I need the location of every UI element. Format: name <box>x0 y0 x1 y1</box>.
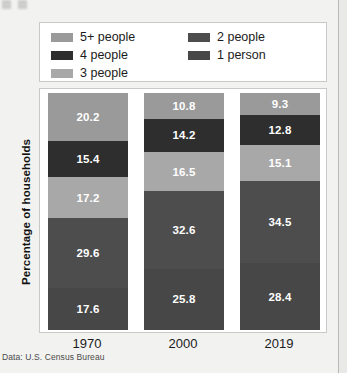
y-axis-title: Percentage of households <box>20 122 32 302</box>
legend-item: 2 people <box>188 29 266 46</box>
bar-segment-value: 16.5 <box>172 166 195 178</box>
legend-swatch-icon <box>51 33 73 42</box>
bar-segment-value: 28.4 <box>268 291 291 303</box>
bar-segment-value: 9.3 <box>272 98 289 110</box>
bar-segment-value: 32.6 <box>172 224 195 236</box>
x-tick-label: 2019 <box>239 336 319 351</box>
bar-segment: 15.1 <box>240 145 320 181</box>
legend-item-label: 4 people <box>80 49 128 62</box>
bar-segment-value: 15.4 <box>76 153 99 165</box>
bar-segment-value: 15.1 <box>268 157 291 169</box>
bar-segment-value: 20.2 <box>76 111 99 123</box>
bar-column-2019: 9.312.815.134.528.4 <box>240 93 320 330</box>
legend-item-label: 3 people <box>80 67 128 80</box>
bar-column-1970: 20.215.417.229.617.6 <box>48 93 128 330</box>
bar-segment: 25.8 <box>144 269 224 330</box>
source-note: Data: U.S. Census Bureau <box>2 352 105 362</box>
bar-segment: 28.4 <box>240 263 320 330</box>
x-axis-tick-labels: 197020002019 <box>39 336 327 351</box>
legend-item: 4 people <box>51 47 135 64</box>
legend-item: 1 person <box>188 47 266 64</box>
bar-segment-value: 34.5 <box>268 216 291 228</box>
bar-segment-value: 17.6 <box>76 303 99 315</box>
bar-segment: 16.5 <box>144 152 224 191</box>
legend-swatch-icon <box>51 51 73 60</box>
bar-segment: 34.5 <box>240 181 320 263</box>
legend-item-label: 2 people <box>217 31 265 44</box>
legend-swatch-icon <box>188 51 210 60</box>
x-tick-label: 1970 <box>47 336 127 351</box>
x-tick-label: 2000 <box>143 336 223 351</box>
bar-segment: 15.4 <box>48 141 128 177</box>
bar-segment-value: 10.8 <box>172 100 195 112</box>
bar-segment: 29.6 <box>48 218 128 288</box>
legend-column-left: 5+ people4 people3 people <box>51 29 135 83</box>
legend-item: 3 people <box>51 65 135 82</box>
legend-swatch-icon <box>51 69 73 78</box>
stacked-bar-chart-figure: 5+ people4 people3 people 2 people1 pers… <box>0 0 339 373</box>
bar-segment: 17.2 <box>48 177 128 218</box>
bar-segment: 10.8 <box>144 93 224 119</box>
bar-segment-value: 25.8 <box>172 293 195 305</box>
plot-area: 20.215.417.229.617.610.814.216.532.625.8… <box>39 88 327 333</box>
bar-segment-value: 12.8 <box>268 124 291 136</box>
bar-segment-value: 14.2 <box>172 129 195 141</box>
page-edge-shade <box>339 0 347 373</box>
legend-swatch-icon <box>188 33 210 42</box>
bar-segment: 17.6 <box>48 288 128 330</box>
legend-item: 5+ people <box>51 29 135 46</box>
legend-item-label: 5+ people <box>80 31 135 44</box>
bar-segment: 9.3 <box>240 93 320 115</box>
legend-column-right: 2 people1 person <box>188 29 266 65</box>
bars-container: 20.215.417.229.617.610.814.216.532.625.8… <box>40 89 328 334</box>
bar-segment-value: 29.6 <box>76 247 99 259</box>
chart-legend: 5+ people4 people3 people 2 people1 pers… <box>39 22 327 82</box>
bar-segment: 32.6 <box>144 191 224 268</box>
bar-segment: 14.2 <box>144 119 224 153</box>
bar-segment-value: 17.2 <box>76 192 99 204</box>
bar-segment: 20.2 <box>48 93 128 141</box>
bar-column-2000: 10.814.216.532.625.8 <box>144 93 224 330</box>
legend-item-label: 1 person <box>217 49 266 62</box>
bar-segment: 12.8 <box>240 115 320 145</box>
